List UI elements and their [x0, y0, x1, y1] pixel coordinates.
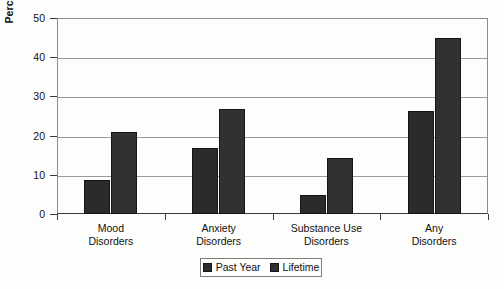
bar: [84, 180, 110, 214]
bar: [111, 132, 137, 214]
x-category-label-line2: Disorders: [165, 235, 273, 248]
y-tick-label: 0: [15, 209, 45, 219]
y-tick-mark: [50, 175, 57, 176]
x-category-label: Substance UseDisorders: [273, 222, 381, 248]
legend-entry: Lifetime: [270, 262, 320, 273]
y-tick-mark: [50, 136, 57, 137]
y-tick-mark: [50, 96, 57, 97]
bar: [300, 195, 326, 214]
y-tick-label: 30: [15, 91, 45, 101]
bars-layer: [57, 18, 488, 214]
x-category-label-line2: Disorders: [380, 235, 488, 248]
x-category-label-line1: Any: [380, 222, 488, 235]
y-tick-label: 10: [15, 170, 45, 180]
legend-label: Past Year: [216, 262, 261, 273]
y-tick-label: 40: [15, 52, 45, 62]
x-tick-mark: [380, 214, 381, 220]
y-tick-label: 20: [15, 131, 45, 141]
x-tick-mark: [57, 214, 58, 220]
x-tick-mark: [273, 214, 274, 220]
bar: [435, 38, 461, 214]
y-tick-mark: [50, 18, 57, 19]
y-tick-label: 50: [15, 13, 45, 23]
legend-entry: Past Year: [203, 262, 261, 273]
x-tick-mark: [165, 214, 166, 220]
x-category-label-line1: Mood: [57, 222, 165, 235]
x-category-label: AnyDisorders: [380, 222, 488, 248]
legend-swatch-icon: [203, 263, 212, 272]
bar-chart: Percentage with Disorders 01020304050 Mo…: [0, 0, 504, 289]
y-tick-mark: [50, 214, 57, 215]
x-category-label: MoodDisorders: [57, 222, 165, 248]
bar: [408, 111, 434, 214]
x-category-label-line1: Anxiety: [165, 222, 273, 235]
bar: [327, 158, 353, 214]
x-tick-mark: [488, 214, 489, 220]
chart-legend: Past YearLifetime: [200, 258, 322, 277]
x-category-label: AnxietyDisorders: [165, 222, 273, 248]
legend-swatch-icon: [270, 263, 279, 272]
x-category-label-line1: Substance Use: [273, 222, 381, 235]
y-axis: 01020304050: [0, 0, 57, 289]
legend-label: Lifetime: [283, 262, 320, 273]
bar: [219, 109, 245, 214]
bar: [192, 148, 218, 214]
y-tick-mark: [50, 57, 57, 58]
x-category-label-line2: Disorders: [273, 235, 381, 248]
x-category-label-line2: Disorders: [57, 235, 165, 248]
